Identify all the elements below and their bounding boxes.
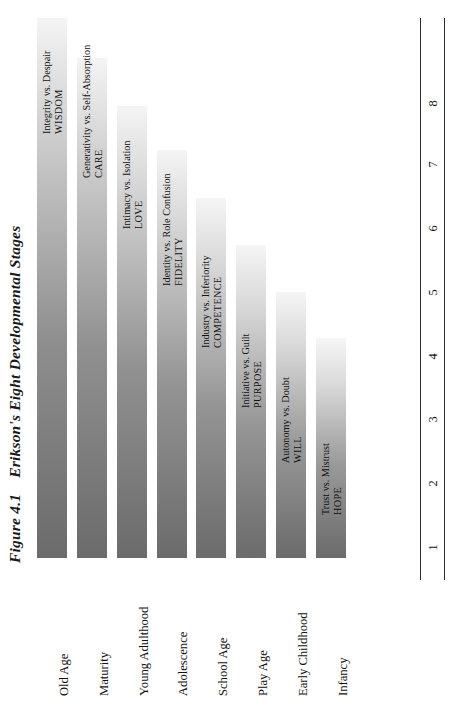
chart-plot-area: Integrity vs. Despair WISDOM Generativit… — [33, 18, 453, 713]
bar-young-adulthood[interactable] — [117, 106, 147, 558]
stage-column-young-adulthood: Intimacy vs. Isolation LOVE — [117, 18, 147, 558]
axis-tick-2: 2 — [426, 475, 441, 493]
stage-column-maturity: Generativity vs. Self-Absorption CARE — [77, 18, 107, 558]
axis-line-outer — [444, 18, 445, 580]
stage-column-adolescence: Identity vs. Role Confusion FIDELITY — [157, 18, 187, 558]
bar-old-age[interactable] — [37, 18, 67, 558]
stage-name-play-age: Play Age — [256, 650, 271, 696]
bar-maturity[interactable] — [77, 58, 107, 558]
figure-caption: Erikson's Eight Developmental Stages — [6, 226, 24, 478]
figure-title: Figure 4.1 Erikson's Eight Developmental… — [0, 0, 30, 713]
stage-column-old-age: Integrity vs. Despair WISDOM — [37, 18, 67, 558]
bar-infancy[interactable] — [316, 338, 346, 558]
stage-column-early-childhood: Autonomy vs. Doubt WILL — [276, 18, 306, 558]
stage-column-infancy: Trust vs. Mistrust HOPE — [316, 18, 346, 558]
figure-number: Figure 4.1 — [6, 494, 24, 563]
axis-line-inner — [420, 18, 421, 580]
stage-column-school-age: Industry vs. Inferiority COMPETENCE — [196, 18, 226, 558]
bar-play-age[interactable] — [236, 245, 266, 558]
axis-tick-8: 8 — [426, 95, 441, 113]
chart-axis: 8 7 6 5 4 3 2 1 — [408, 18, 453, 618]
stage-name-old-age: Old Age — [57, 654, 72, 696]
axis-tick-3: 3 — [426, 411, 441, 429]
bar-early-childhood[interactable] — [276, 292, 306, 558]
axis-tick-4: 4 — [426, 348, 441, 366]
bar-school-age[interactable] — [196, 198, 226, 558]
axis-tick-5: 5 — [426, 284, 441, 302]
stage-name-infancy: Infancy — [336, 658, 351, 696]
axis-tick-7: 7 — [426, 156, 441, 174]
axis-tick-1: 1 — [426, 539, 441, 557]
stage-name-young-adulthood: Young Adulthood — [137, 607, 152, 696]
stage-name-early-childhood: Early Childhood — [296, 612, 311, 696]
stage-column-play-age: Initiative vs. Guilt PURPOSE — [236, 18, 266, 558]
stage-name-school-age: School Age — [216, 638, 231, 696]
stage-name-adolescence: Adolescence — [176, 632, 191, 696]
axis-tick-6: 6 — [426, 220, 441, 238]
bar-adolescence[interactable] — [157, 150, 187, 558]
stage-name-maturity: Maturity — [97, 652, 112, 696]
